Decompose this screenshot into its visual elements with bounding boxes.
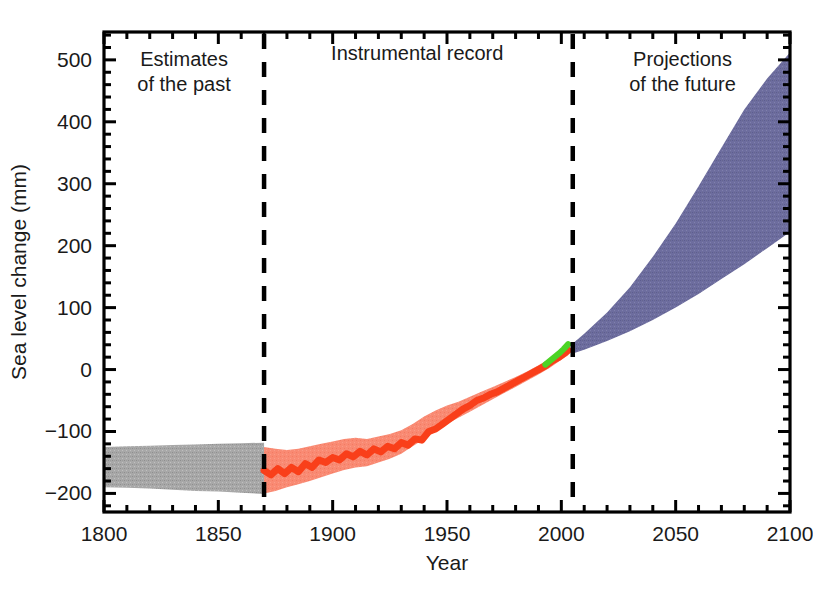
instrumental-record: Instrumental record — [331, 42, 503, 64]
y-tick-label: −200 — [45, 481, 92, 504]
x-tick-label: 2000 — [538, 522, 585, 545]
y-axis-title: Sea level change (mm) — [7, 164, 30, 380]
x-tick-label: 2050 — [652, 522, 699, 545]
y-tick-label: −100 — [45, 419, 92, 442]
chart-canvas: 1800185019001950200020502100 −200−100010… — [0, 0, 813, 602]
estimates-of-the-past-line-1: of the past — [137, 73, 231, 95]
y-tick-label: 0 — [80, 358, 92, 381]
x-tick-label: 2100 — [767, 522, 813, 545]
y-tick-label: 300 — [57, 172, 92, 195]
x-axis-title: Year — [426, 551, 468, 574]
x-tick-label: 1850 — [195, 522, 242, 545]
x-tick-label: 1800 — [81, 522, 128, 545]
x-tick-label: 1900 — [309, 522, 356, 545]
sea-level-change-chart: 1800185019001950200020502100 −200−100010… — [0, 0, 813, 602]
y-tick-label: 500 — [57, 48, 92, 71]
projections-of-the-future-line-1: of the future — [629, 73, 736, 95]
y-tick-label: 400 — [57, 110, 92, 133]
estimates-of-the-past-line-0: Estimates — [140, 48, 228, 70]
x-tick-label: 1950 — [424, 522, 471, 545]
y-tick-label: 200 — [57, 234, 92, 257]
y-tick-label: 100 — [57, 296, 92, 319]
instrumental-record-line-0: Instrumental record — [331, 42, 503, 64]
projections-of-the-future-line-0: Projections — [633, 48, 732, 70]
series-band-0 — [104, 443, 264, 494]
